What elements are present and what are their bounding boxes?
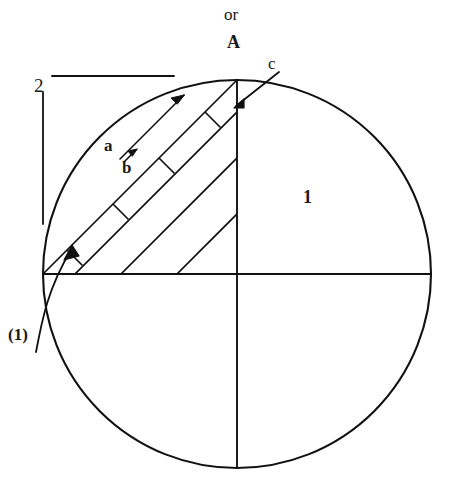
ladder-rung [158,157,174,173]
label-a-uppercase: A [227,33,240,51]
label-b-lowercase: b [122,159,131,176]
ladder-band [59,96,276,313]
leader-arrow-paren1-head [64,245,79,260]
ladder-rung [112,203,128,219]
diagonal-line-3 [110,147,304,341]
leader-arrow-c [234,72,279,108]
parallel-diagonals [110,147,340,377]
leader-arrow-c-head [234,99,244,108]
leader-arrow-a-shaft [120,95,184,159]
label-or: or [224,6,238,23]
label-paren-one: (1) [8,326,28,343]
label-a-lowercase: a [104,137,113,154]
diagonal-line-4 [146,183,340,377]
leader-arrow-a [120,95,184,159]
circle-diagram-svg [0,0,452,485]
ladder-rung [204,111,220,127]
label-one: 1 [303,188,312,206]
figure-canvas: or A c 2 a b 1 (1) [0,0,452,485]
label-two: 2 [34,76,44,95]
leader-arrow-a-head [171,95,184,104]
ladder-rail-inner [59,96,253,290]
label-c: c [268,55,276,72]
